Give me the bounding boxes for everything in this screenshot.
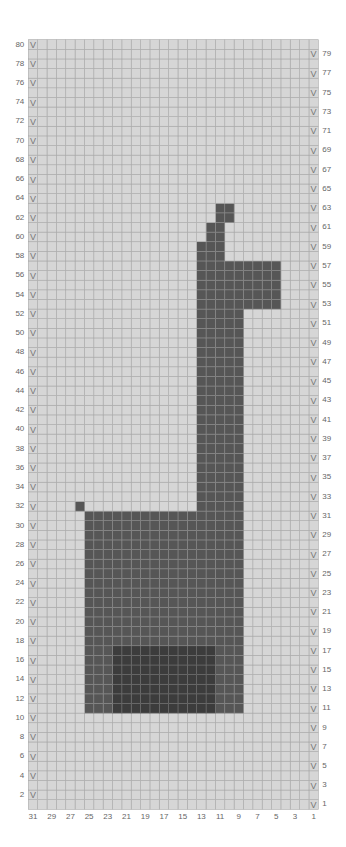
chart-cell	[300, 367, 309, 377]
chart-cell-contrast	[122, 694, 131, 704]
chart-cell-main	[169, 588, 178, 598]
chart-cell	[197, 771, 206, 781]
chart-cell	[253, 675, 262, 685]
chart-cell	[66, 203, 75, 213]
chart-cell	[197, 232, 206, 242]
chart-cell	[309, 444, 318, 454]
chart-cell	[84, 184, 93, 194]
chart-cell	[75, 655, 84, 665]
chart-cell-main	[84, 655, 93, 665]
row-marker-v: V	[30, 732, 36, 742]
chart-cell	[281, 501, 290, 511]
chart-cell	[84, 271, 93, 281]
chart-cell-main	[103, 703, 112, 713]
chart-cell	[94, 203, 103, 213]
chart-cell	[112, 174, 121, 184]
chart-cell	[290, 309, 299, 319]
chart-cell	[47, 482, 56, 492]
chart-cell-main	[103, 675, 112, 685]
chart-cell	[187, 40, 196, 50]
chart-cell-main	[84, 530, 93, 540]
chart-cell	[75, 588, 84, 598]
chart-cell-main	[103, 694, 112, 704]
chart-cell	[178, 97, 187, 107]
row-marker-v: V	[30, 367, 36, 377]
chart-cell	[56, 559, 65, 569]
chart-cell-main	[197, 434, 206, 444]
chart-cell-main	[206, 357, 215, 367]
chart-cell	[94, 742, 103, 752]
chart-cell	[159, 713, 168, 723]
chart-cell	[206, 59, 215, 69]
chart-cell	[150, 49, 159, 59]
chart-cell	[28, 69, 37, 79]
chart-cell	[262, 569, 271, 579]
chart-cell	[38, 251, 47, 261]
chart-cell	[66, 376, 75, 386]
chart-cell	[150, 126, 159, 136]
chart-cell	[159, 742, 168, 752]
chart-cell	[178, 357, 187, 367]
chart-cell	[290, 665, 299, 675]
chart-cell	[84, 463, 93, 473]
chart-cell-main	[206, 405, 215, 415]
chart-cell	[262, 598, 271, 608]
chart-cell	[290, 444, 299, 454]
chart-cell	[47, 88, 56, 98]
chart-cell-contrast	[112, 655, 121, 665]
chart-cell	[28, 165, 37, 175]
chart-cell	[243, 655, 252, 665]
chart-cell	[281, 492, 290, 502]
chart-cell	[38, 453, 47, 463]
chart-cell	[122, 117, 131, 127]
chart-cell	[75, 242, 84, 252]
chart-cell	[75, 165, 84, 175]
chart-cell	[290, 607, 299, 617]
chart-cell-main	[103, 636, 112, 646]
chart-cell-main	[159, 627, 168, 637]
chart-cell	[243, 232, 252, 242]
chart-cell	[28, 569, 37, 579]
chart-cell	[272, 578, 281, 588]
chart-cell	[84, 319, 93, 329]
chart-cell-contrast	[131, 703, 140, 713]
chart-cell	[178, 492, 187, 502]
chart-cell-contrast	[122, 665, 131, 675]
chart-cell	[94, 405, 103, 415]
chart-cell	[56, 405, 65, 415]
chart-cell	[262, 49, 271, 59]
chart-cell-main	[84, 540, 93, 550]
chart-cell	[169, 88, 178, 98]
chart-cell	[243, 184, 252, 194]
chart-cell	[47, 703, 56, 713]
chart-cell	[206, 203, 215, 213]
chart-cell	[159, 251, 168, 261]
chart-cell	[262, 338, 271, 348]
chart-cell	[262, 588, 271, 598]
chart-cell-main	[178, 636, 187, 646]
chart-cell-main	[131, 569, 140, 579]
chart-cell	[262, 328, 271, 338]
chart-cell	[169, 319, 178, 329]
chart-cell	[281, 290, 290, 300]
chart-cell	[253, 473, 262, 483]
chart-cell	[300, 723, 309, 733]
chart-cell	[112, 501, 121, 511]
chart-cell	[112, 261, 121, 271]
row-marker-v: V	[311, 588, 317, 598]
chart-cell	[131, 492, 140, 502]
chart-cell	[141, 732, 150, 742]
chart-cell	[272, 501, 281, 511]
chart-cell-main	[94, 559, 103, 569]
chart-cell	[159, 348, 168, 358]
chart-cell	[112, 117, 121, 127]
chart-cell	[197, 790, 206, 800]
chart-cell	[178, 415, 187, 425]
row-marker-v: V	[311, 453, 317, 463]
chart-cell-main	[150, 530, 159, 540]
chart-cell	[178, 790, 187, 800]
chart-cell	[122, 376, 131, 386]
chart-cell-main	[225, 434, 234, 444]
chart-cell	[187, 492, 196, 502]
chart-cell	[253, 703, 262, 713]
